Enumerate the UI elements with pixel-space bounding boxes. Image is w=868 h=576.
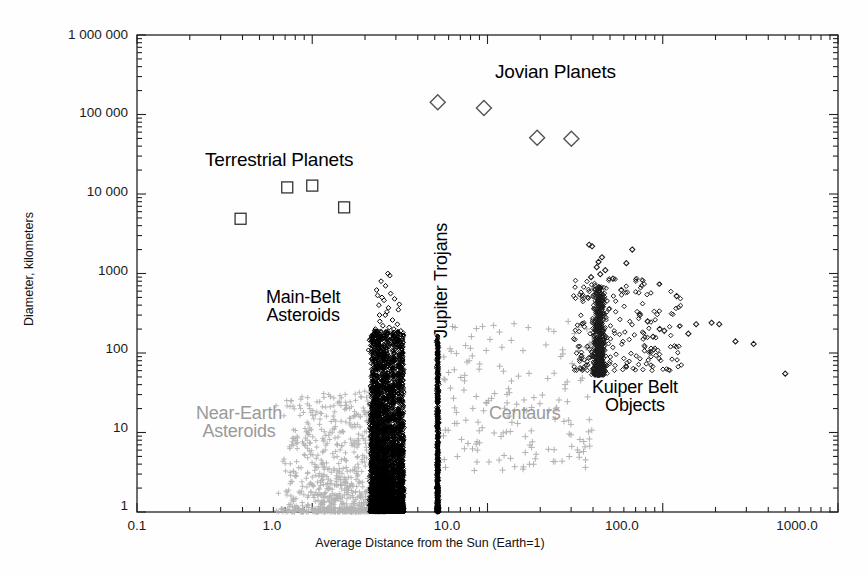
main-belt-asteroids-label-line-2: Asteroids xyxy=(266,306,340,324)
x-axis-title: Average Distance from the Sun (Earth=1) xyxy=(220,536,640,550)
main-belt-asteroids-label: Main-BeltAsteroids xyxy=(266,288,340,325)
y-tick-label: 1 xyxy=(0,498,128,513)
kuiper-belt-objects-label-line-1: Kuiper Belt xyxy=(592,378,678,396)
main-belt-asteroids-label-line-1: Main-Belt xyxy=(266,288,340,306)
series-centaurs xyxy=(440,318,595,473)
x-tick-label: 0.1 xyxy=(97,518,177,533)
near-earth-asteroids-label-line-2: Asteroids xyxy=(196,422,282,440)
y-tick-label: 10 000 xyxy=(0,184,128,199)
y-axis-title: Diameter, kilometers xyxy=(22,174,36,364)
y-tick-label: 1000 xyxy=(0,263,128,278)
near-earth-asteroids-label-line-1: Near-Earth xyxy=(196,404,282,422)
kuiper-belt-objects-label: Kuiper BeltObjects xyxy=(592,378,678,415)
series-main-belt-asteroids xyxy=(366,271,406,514)
x-tick-label: 1.0 xyxy=(232,518,312,533)
jupiter-trojans-label: Jupiter Trojans xyxy=(432,223,450,338)
x-tick-label: 100.0 xyxy=(582,518,662,533)
y-tick-label: 10 xyxy=(0,420,128,435)
terrestrial-planets-label: Terrestrial Planets xyxy=(205,150,353,169)
series-kuiper-belt-objects xyxy=(571,242,788,377)
series-terrestrial-planets xyxy=(235,180,350,224)
x-tick-label: 10.0 xyxy=(407,518,487,533)
series-jovian-planets xyxy=(430,95,579,147)
y-tick-label: 1 000 000 xyxy=(0,27,128,42)
centaurs-label: Centaurs xyxy=(489,404,560,422)
series-jupiter-trojans xyxy=(434,334,441,514)
x-tick-label: 1000.0 xyxy=(757,518,837,533)
figure-canvas: 1 000 000 100 000 10 000 1000 100 10 1 0… xyxy=(0,0,868,576)
near-earth-asteroids-label: Near-EarthAsteroids xyxy=(196,404,282,441)
kuiper-belt-objects-label-line-2: Objects xyxy=(592,396,678,414)
y-tick-label: 100 000 xyxy=(0,105,128,120)
y-tick-label: 100 xyxy=(0,341,128,356)
jovian-planets-label: Jovian Planets xyxy=(495,62,616,81)
